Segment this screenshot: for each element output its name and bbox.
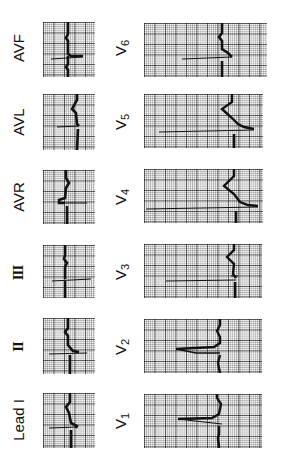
label-iii: III bbox=[11, 266, 26, 281]
ecg-panel-iii bbox=[43, 245, 95, 298]
label-v6: V6 bbox=[113, 40, 131, 56]
ecg-trace-v6 bbox=[144, 23, 267, 77]
ecg-trace-avl bbox=[43, 94, 95, 150]
ecg-trace-v1 bbox=[144, 394, 262, 448]
label-v4: V4 bbox=[113, 189, 131, 205]
ecg-panel-v2 bbox=[144, 319, 262, 373]
ecg-panel-v6 bbox=[144, 23, 267, 77]
label-lead-i: Lead I bbox=[11, 399, 26, 441]
label-ii: II bbox=[11, 342, 26, 352]
ecg-trace-v3 bbox=[144, 244, 262, 298]
ecg-trace-v4 bbox=[144, 169, 263, 223]
label-v5: V5 bbox=[113, 114, 131, 130]
label-v3: V3 bbox=[113, 264, 131, 280]
label-avl: AVL bbox=[11, 108, 26, 135]
ecg-trace-avr bbox=[43, 170, 95, 224]
ecg-panel-avr bbox=[43, 170, 95, 224]
label-v2: V2 bbox=[113, 339, 131, 355]
ecg-trace-v5 bbox=[144, 94, 263, 148]
ecg-trace-v2 bbox=[144, 319, 262, 373]
ecg-trace-ii bbox=[43, 318, 95, 374]
ecg-trace-avf bbox=[43, 22, 95, 77]
ecg-panel-v5 bbox=[144, 94, 263, 148]
ecg-panel-avl bbox=[43, 94, 95, 150]
ecg-trace-iii bbox=[43, 245, 95, 298]
ecg-panel-v3 bbox=[144, 244, 262, 298]
label-avf: AVF bbox=[11, 34, 26, 62]
ecg-panel-ii bbox=[43, 318, 95, 374]
label-avr: AVR bbox=[11, 182, 26, 212]
label-v1: V1 bbox=[113, 413, 131, 429]
ecg-panel-v1 bbox=[144, 394, 262, 448]
ecg-panel-v4 bbox=[144, 169, 263, 223]
ecg-panel-avf bbox=[43, 22, 95, 77]
ecg-trace-lead-i bbox=[43, 393, 95, 448]
ecg-panel-lead-i bbox=[43, 393, 95, 448]
